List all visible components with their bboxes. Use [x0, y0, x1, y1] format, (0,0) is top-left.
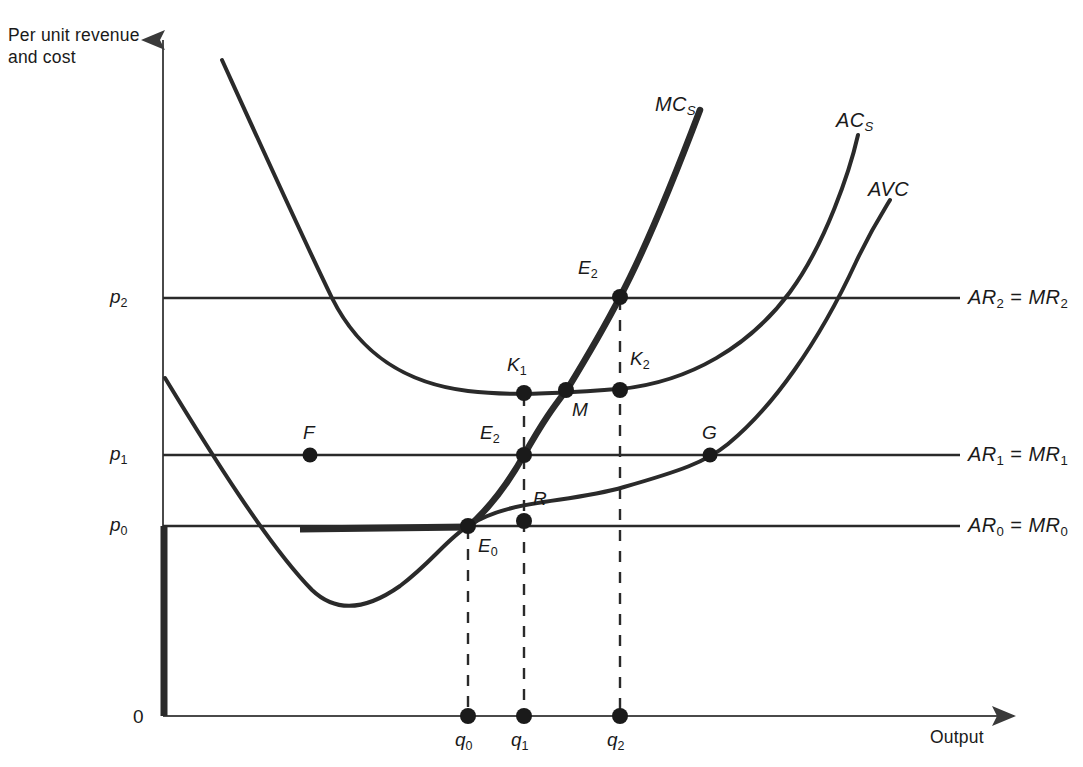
revenue-label-ar0: AR0 = MR0 [968, 513, 1068, 540]
curve-label-ac-sub: S [864, 119, 873, 134]
point-label-E1: E2 [480, 421, 500, 447]
point-label-K2: K2 [630, 347, 650, 373]
revenue-label-ar0-eq: = [1004, 514, 1029, 536]
point-label-K2-sub: 2 [643, 358, 650, 372]
point-R [516, 513, 532, 529]
y-tick-sub-p1: 1 [121, 453, 128, 467]
revenue-label-ar2: AR2 = MR2 [968, 285, 1068, 312]
curve-label-mc: MCS [655, 92, 696, 119]
point-E2 [612, 289, 628, 305]
mc-horizontal-segment [300, 527, 468, 529]
y-tick-sub-p0: 0 [121, 524, 128, 538]
x-tick-sub-q1: 1 [522, 739, 529, 753]
point-q0-axis [460, 708, 476, 724]
point-M [558, 382, 574, 398]
point-q1-axis [516, 708, 532, 724]
point-label-E2-sub: 2 [591, 267, 598, 281]
y-tick-label-p1: p1 [110, 442, 128, 468]
revenue-label-ar1-sub-right: 1 [1060, 453, 1067, 468]
x-tick-label-q2: q2 [607, 728, 625, 754]
point-label-E0: E0 [478, 534, 498, 560]
cost-curve-svg [0, 0, 1083, 767]
revenue-label-ar1-eq: = [1004, 443, 1029, 465]
revenue-label-ar1-sub-left: 1 [997, 453, 1004, 468]
revenue-label-ar2-eq: = [1004, 286, 1029, 308]
point-K1 [516, 385, 532, 401]
y-axis-title-line1: Per unit revenue [8, 25, 140, 46]
revenue-label-ar0-right: MR [1029, 514, 1061, 536]
revenue-label-ar2-sub-left: 2 [997, 296, 1004, 311]
point-label-E0-sub: 0 [491, 545, 498, 559]
revenue-label-ar1-left: AR [968, 443, 997, 465]
revenue-label-ar0-left: AR [968, 514, 997, 536]
revenue-label-ar2-right: MR [1029, 286, 1061, 308]
curve-label-ac: ACS [836, 108, 874, 135]
point-label-M: M [572, 398, 588, 421]
point-E0 [460, 518, 476, 534]
point-E1 [516, 447, 532, 463]
x-tick-label-q0: q0 [455, 728, 473, 754]
x-tick-sub-q0: 0 [466, 739, 473, 753]
axis-lines [163, 40, 1014, 716]
curve-label-avc: AVC [868, 177, 909, 201]
curve-label-avc-base: AVC [868, 178, 909, 200]
point-label-F: F [303, 421, 315, 444]
revenue-label-ar1: AR1 = MR1 [968, 442, 1068, 469]
revenue-lines-group [163, 298, 960, 526]
point-label-R: R [533, 487, 547, 510]
curve-label-mc-sub: S [687, 103, 696, 118]
point-q2-axis [612, 708, 628, 724]
point-label-K1-sub: 1 [520, 364, 527, 378]
point-label-E2: E2 [578, 256, 598, 282]
y-tick-sub-p2: 2 [121, 296, 128, 310]
revenue-label-ar2-left: AR [968, 286, 997, 308]
y-axis-title-line2: and cost [8, 47, 76, 68]
avc-curve [165, 200, 890, 606]
point-label-E1-sub: 2 [493, 432, 500, 446]
x-tick-sub-q2: 2 [618, 739, 625, 753]
curve-label-ac-base: AC [836, 109, 864, 131]
curve-label-mc-base: MC [655, 93, 687, 115]
point-K2 [612, 382, 628, 398]
x-tick-label-q1: q1 [511, 728, 529, 754]
revenue-label-ar1-right: MR [1029, 443, 1061, 465]
figure-canvas: Per unit revenue and cost Output 0 p2 p1… [0, 0, 1083, 767]
point-label-K1: K1 [507, 353, 527, 379]
ac-curve [222, 60, 858, 394]
point-label-G: G [702, 421, 717, 444]
revenue-label-ar2-sub-right: 2 [1060, 296, 1067, 311]
origin-label: 0 [133, 705, 144, 728]
point-F [303, 448, 318, 463]
y-tick-label-p2: p2 [110, 285, 128, 311]
point-G [703, 448, 718, 463]
revenue-label-ar0-sub-left: 0 [997, 524, 1004, 539]
revenue-label-ar0-sub-right: 0 [1060, 524, 1067, 539]
mc-rising-segment [468, 110, 700, 527]
y-tick-label-p0: p0 [110, 513, 128, 539]
x-axis-title: Output [930, 727, 984, 748]
